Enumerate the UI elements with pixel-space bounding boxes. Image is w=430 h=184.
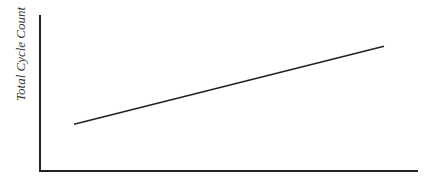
y-axis-label: Total Cycle Count bbox=[13, 6, 28, 101]
line-chart: Total Cycle Count bbox=[0, 0, 430, 184]
data-line bbox=[74, 46, 384, 124]
